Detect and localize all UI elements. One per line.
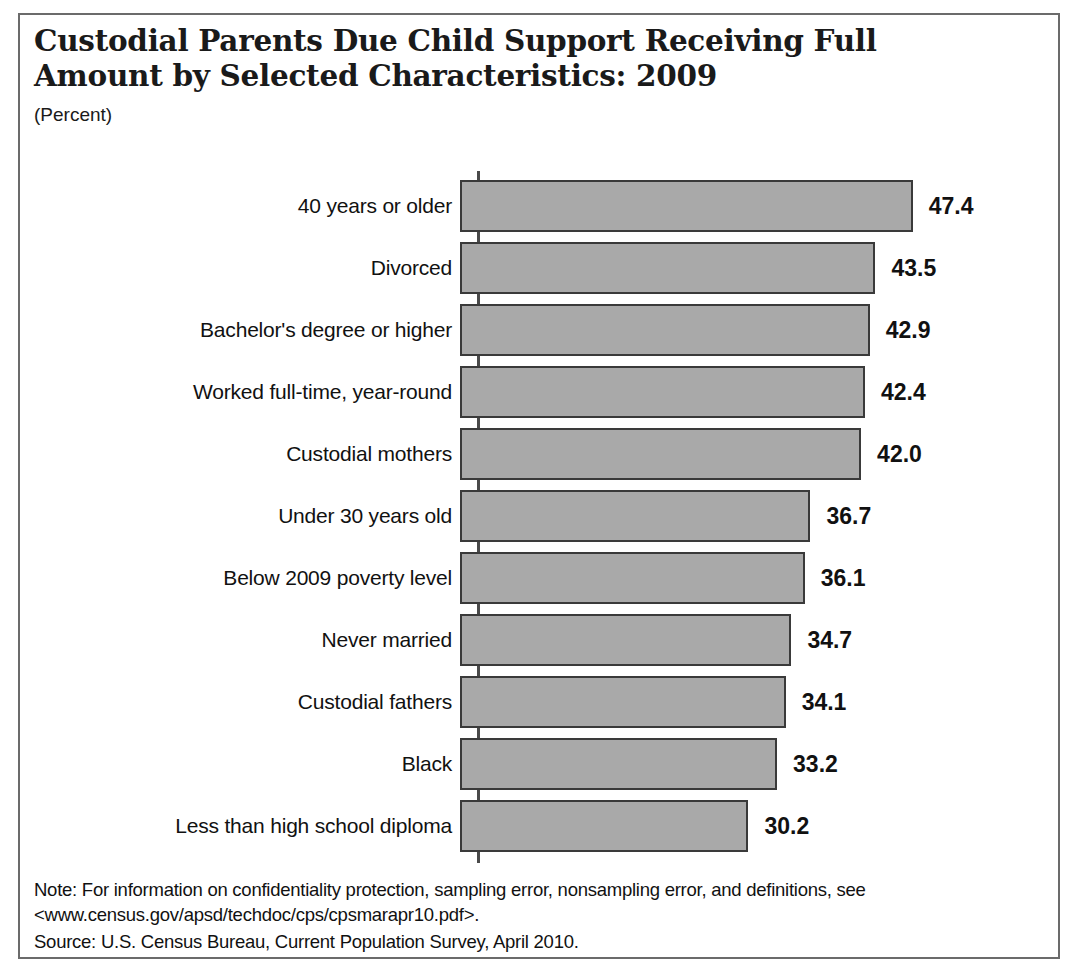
bar-value-label: 33.2 [793, 751, 838, 778]
bar-row: Bachelor's degree or higher42.9 [20, 299, 1058, 361]
bar-category-label: Less than high school diploma [20, 814, 460, 838]
bar [460, 490, 810, 542]
chart-subtitle: (Percent) [34, 104, 1034, 126]
bar-row: 40 years or older47.4 [20, 175, 1058, 237]
title-block: Custodial Parents Due Child Support Rece… [34, 23, 1034, 126]
bar-zone: 47.4 [460, 175, 1058, 237]
page-title: Custodial Parents Due Child Support Rece… [34, 23, 1034, 93]
bar-category-label: Custodial mothers [20, 442, 460, 466]
bar-row: Below 2009 poverty level36.1 [20, 547, 1058, 609]
bar-row: Under 30 years old36.7 [20, 485, 1058, 547]
bar-zone: 42.9 [460, 299, 1058, 361]
bar-zone: 34.7 [460, 609, 1058, 671]
bar-value-label: 47.4 [929, 193, 974, 220]
bar-zone: 36.7 [460, 485, 1058, 547]
bar-value-label: 42.0 [877, 441, 922, 468]
bar [460, 800, 748, 852]
source-text: Source: U.S. Census Bureau, Current Popu… [34, 929, 1044, 954]
bar-value-label: 36.7 [826, 503, 871, 530]
chart-plot-area: 40 years or older47.4Divorced43.5Bachelo… [20, 163, 1058, 863]
bar-value-label: 42.4 [881, 379, 926, 406]
bar-zone: 33.2 [460, 733, 1058, 795]
bar-category-label: Never married [20, 628, 460, 652]
bar-zone: 36.1 [460, 547, 1058, 609]
bar [460, 614, 791, 666]
bar [460, 304, 870, 356]
bar-row: Never married34.7 [20, 609, 1058, 671]
bar [460, 552, 805, 604]
bar-row: Black33.2 [20, 733, 1058, 795]
bar-category-label: Under 30 years old [20, 504, 460, 528]
bar [460, 366, 865, 418]
bar-category-label: Custodial fathers [20, 690, 460, 714]
bar-category-label: Worked full-time, year-round [20, 380, 460, 404]
footnotes: Note: For information on confidentiality… [34, 877, 1044, 954]
bar-category-label: Black [20, 752, 460, 776]
figure-frame: Custodial Parents Due Child Support Rece… [18, 13, 1060, 959]
bar-row: Custodial fathers34.1 [20, 671, 1058, 733]
bar-value-label: 34.7 [807, 627, 852, 654]
bar-row: Divorced43.5 [20, 237, 1058, 299]
bar [460, 242, 875, 294]
bar-row: Custodial mothers42.0 [20, 423, 1058, 485]
bar-zone: 30.2 [460, 795, 1058, 857]
bar-zone: 34.1 [460, 671, 1058, 733]
bar-value-label: 43.5 [891, 255, 936, 282]
bar-value-label: 30.2 [764, 813, 809, 840]
bar-row: Worked full-time, year-round42.4 [20, 361, 1058, 423]
bar-value-label: 34.1 [802, 689, 847, 716]
bar [460, 428, 861, 480]
bar-row: Less than high school diploma30.2 [20, 795, 1058, 857]
note-text: Note: For information on confidentiality… [34, 877, 1044, 927]
bar [460, 738, 777, 790]
bar-rows: 40 years or older47.4Divorced43.5Bachelo… [20, 175, 1058, 857]
bar-category-label: Below 2009 poverty level [20, 566, 460, 590]
figure-inner: Custodial Parents Due Child Support Rece… [20, 15, 1058, 957]
bar-value-label: 36.1 [821, 565, 866, 592]
bar-zone: 43.5 [460, 237, 1058, 299]
bar [460, 180, 913, 232]
bar-zone: 42.0 [460, 423, 1058, 485]
bar-value-label: 42.9 [886, 317, 931, 344]
bar [460, 676, 786, 728]
bar-category-label: Divorced [20, 256, 460, 280]
bar-category-label: 40 years or older [20, 194, 460, 218]
bar-category-label: Bachelor's degree or higher [20, 318, 460, 342]
bar-zone: 42.4 [460, 361, 1058, 423]
